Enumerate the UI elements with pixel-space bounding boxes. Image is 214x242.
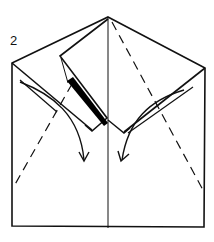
origami-diagram <box>0 0 214 242</box>
